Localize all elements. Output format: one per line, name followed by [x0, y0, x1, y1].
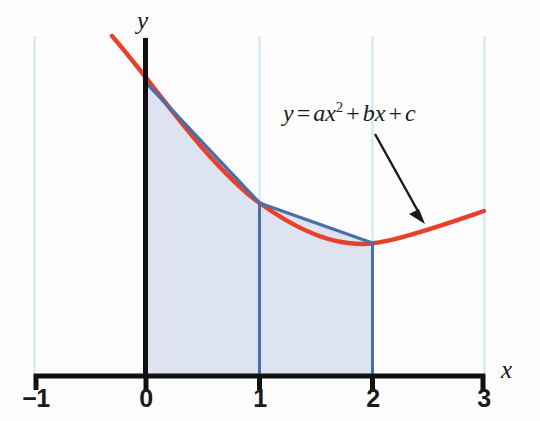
annotation-arrow-shaft — [375, 134, 419, 213]
equation-plus-1: + — [343, 100, 363, 126]
equation-annotation: y=ax2+bx+c — [283, 101, 416, 125]
equation-a: a — [313, 100, 325, 126]
annotation-arrow — [375, 134, 425, 224]
plot-canvas — [0, 0, 540, 421]
annotation-arrow-head — [409, 209, 425, 224]
x-tick-label-neg1: −1 — [16, 386, 56, 411]
y-axis-label: y — [137, 8, 148, 33]
x-tick-label-3: 3 — [464, 386, 504, 411]
x-tick-label-1: 1 — [240, 386, 280, 411]
x-tick-label-2: 2 — [353, 386, 393, 411]
parabola-approximation-figure: y=ax2+bx+c y x −1 0 1 2 3 — [0, 0, 540, 421]
equation-equals: = — [294, 100, 314, 126]
equation-bx: x — [375, 100, 386, 126]
equation-y: y — [283, 100, 294, 126]
equation-x: x — [325, 100, 336, 126]
equation-b: b — [363, 100, 375, 126]
x-axis-label: x — [501, 357, 512, 382]
equation-c: c — [405, 100, 416, 126]
equation-plus-2: + — [386, 100, 406, 126]
x-tick-label-0: 0 — [126, 386, 166, 411]
